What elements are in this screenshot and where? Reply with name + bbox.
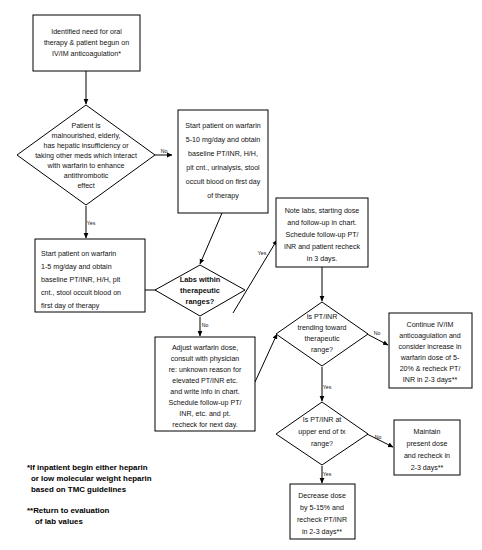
trending-line-1: Is PT/INR	[307, 313, 338, 321]
identified-need-line-3: IV/IM anticoagulation*	[52, 50, 121, 58]
continue-line-6: INR in 2-3 days**	[403, 376, 458, 384]
upperend-line-3: range?	[311, 440, 333, 448]
risk-line-5: with warfarin to enhance	[47, 162, 125, 170]
adjust-warfarin-dose-box[interactable]: Adjust warfarin dose, consult with physi…	[155, 337, 255, 431]
edge-label-risk-no: No	[161, 148, 168, 154]
flowchart-svg: Identified need for oral therapy & patie…	[0, 0, 482, 550]
edge-label-upper-no: No	[375, 434, 382, 440]
identified-need-line-1: Identified need for oral	[51, 28, 122, 36]
edge-labs-yes-to-notelabs	[233, 240, 277, 313]
decrease-line-4: in 2-3 days**	[302, 528, 342, 536]
decrease-line-3: recheck PT/INR	[297, 516, 347, 524]
footnote2-line-2: of lab values	[35, 517, 83, 526]
notelabs-line-1: Note labs, starting dose	[285, 207, 360, 215]
adjust-line-3: re: unknown reason for	[169, 366, 242, 374]
adjust-line-4: elevated PT/INR etc.	[172, 377, 237, 385]
edge-label-trending-yes: Yes	[323, 384, 332, 390]
maintain-line-2: present dose	[406, 440, 447, 448]
trending-line-4: range?	[311, 346, 333, 354]
identified-need-box[interactable]: Identified need for oral therapy & patie…	[33, 15, 140, 71]
edge-label-labs-yes: Yes	[258, 250, 267, 256]
risk-line-1: Patient is	[71, 122, 101, 130]
labs-line-3: ranges?	[186, 297, 215, 306]
adjust-line-2: consult with physician	[171, 355, 240, 363]
start15-line-5: first day of therapy	[41, 302, 100, 310]
decrease-line-2: by 5-15% and	[300, 504, 344, 512]
notelabs-line-5: in 3 days.	[307, 255, 337, 263]
is-ptinr-upper-end-decision[interactable]: Is PT/INR at upper end of tx range?	[276, 402, 368, 465]
adjust-line-1: Adjust warfarin dose,	[172, 344, 238, 352]
continue-line-3: consider increase in	[398, 343, 461, 351]
risk-line-7: effect	[77, 182, 94, 190]
risk-line-6: antithrombotic	[64, 172, 109, 180]
notelabs-line-3: Schedule follow-up PT/	[286, 231, 359, 239]
start15-line-1: Start patient on warfarin	[41, 250, 116, 258]
decrease-line-1: Decrease dose	[298, 492, 346, 500]
notelabs-line-4: INR and patient recheck	[284, 243, 361, 251]
trending-line-3: therapeutic	[304, 335, 340, 343]
is-ptinr-trending-decision[interactable]: Is PT/INR trending toward therapeutic ra…	[276, 302, 368, 366]
notelabs-line-2: and follow-up in chart.	[287, 219, 356, 227]
start15-line-4: cnt., stool occult blood on	[41, 289, 121, 297]
note-labs-box[interactable]: Note labs, starting dose and follow-up i…	[276, 198, 368, 267]
adjust-line-6: Schedule follow-up PT/	[169, 399, 242, 407]
maintain-line-4: 2-3 days**	[411, 464, 444, 472]
adjust-line-5: and write info in chart.	[170, 388, 239, 396]
trending-line-2: trending toward	[298, 324, 347, 332]
decrease-dose-box[interactable]: Decrease dose by 5-15% and recheck PT/IN…	[290, 484, 355, 539]
start510-line-1: Start patient on warfarin	[185, 122, 260, 130]
start510-line-4: plt cnt., urinalysis, stool	[186, 164, 260, 172]
labs-within-therapeutic-ranges-decision[interactable]: Labs within therapeutic ranges?	[155, 265, 245, 316]
footnote-double-asterisk: **Return to evaluation of lab values	[27, 506, 110, 526]
adjust-line-7: INR, etc. and pt.	[179, 410, 230, 418]
footnote1-line-1: *If inpatient begin either heparin	[27, 463, 148, 472]
continue-line-1: Continue IV/IM	[407, 321, 454, 329]
labs-line-1: Labs within	[180, 275, 221, 284]
footnote1-line-3: based on TMC guidelines	[31, 485, 127, 494]
maintain-line-3: and recheck in	[404, 452, 450, 460]
footnote-single-asterisk: *If inpatient begin either heparin or lo…	[27, 463, 152, 494]
edge-label-trending-no: No	[374, 330, 381, 336]
footnote1-line-2: or low molecular weight heparin	[31, 474, 152, 483]
start-warfarin-1-5-box[interactable]: Start patient on warfarin 1-5 mg/day and…	[35, 239, 145, 312]
maintain-present-dose-box[interactable]: Maintain present dose and recheck in 2-3…	[394, 420, 460, 475]
adjust-line-8: recheck for next day.	[172, 421, 237, 429]
patient-risk-decision[interactable]: Patient is malnourished, elderly, has he…	[17, 105, 155, 205]
continue-line-5: 20% & recheck PT/	[400, 365, 461, 373]
edge-label-upper-yes: Yes	[323, 471, 332, 477]
risk-line-4: taking other meds which interact	[35, 152, 137, 160]
identified-need-line-2: therapy & patient begun on	[44, 39, 129, 47]
start15-line-3: baseline PT/INR, H/H, plt	[41, 276, 120, 284]
start510-line-5: occult blood on first day	[186, 178, 261, 186]
start510-line-3: baseline PT/INR, H/H,	[188, 150, 258, 158]
start15-line-2: 1-5 mg/day and obtain	[41, 263, 112, 271]
maintain-line-1: Maintain	[414, 428, 441, 436]
footnote2-line-1: **Return to evaluation	[27, 506, 110, 515]
start510-line-2: 5-10 mg/day and obtain	[186, 136, 261, 144]
continue-line-2: anticoagulation and	[399, 332, 461, 340]
edge-label-labs-no: No	[202, 322, 209, 328]
start-warfarin-5-10-box[interactable]: Start patient on warfarin 5-10 mg/day an…	[178, 110, 268, 213]
continue-line-4: warfarin dose of 5-	[400, 354, 460, 362]
flowchart-canvas: Identified need for oral therapy & patie…	[0, 0, 482, 550]
edge-start510-to-labs	[200, 213, 222, 264]
continue-ivim-box[interactable]: Continue IV/IM anticoagulation and consi…	[389, 313, 472, 388]
edge-adjust-to-trending	[255, 334, 277, 382]
upperend-line-1: Is PT/INR at	[303, 416, 342, 424]
upperend-line-2: upper end of tx	[298, 428, 346, 436]
risk-line-2: malnourished, elderly,	[52, 132, 121, 140]
risk-line-3: has hepatic insufficiency or	[43, 142, 129, 150]
edge-label-risk-yes: Yes	[87, 220, 96, 226]
start510-line-6: of therapy	[207, 192, 239, 200]
labs-line-2: therapeutic	[180, 286, 220, 295]
